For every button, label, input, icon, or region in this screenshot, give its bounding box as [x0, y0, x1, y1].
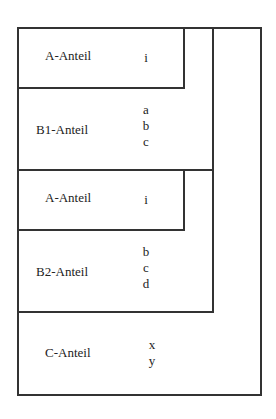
outer-bottom-line — [17, 394, 262, 396]
b1-letters: a b c — [140, 102, 152, 150]
outer-right-line — [260, 27, 262, 396]
a1-bottom-line — [17, 87, 185, 89]
letter: c — [140, 260, 152, 276]
a2-label: A-Anteil — [45, 190, 91, 206]
a2-right-line — [183, 169, 185, 231]
b2-letters: b c d — [140, 244, 152, 292]
letter: b — [140, 118, 152, 134]
letter: c — [140, 134, 152, 150]
c-label: C-Anteil — [45, 345, 91, 361]
b2-label: B2-Anteil — [36, 264, 88, 280]
a1-label: A-Anteil — [45, 48, 91, 64]
letter: d — [140, 276, 152, 292]
b2-bottom-line — [17, 311, 214, 313]
a1-right-line — [183, 27, 185, 89]
letter: y — [146, 353, 158, 369]
b1-label: B1-Anteil — [36, 122, 88, 138]
letter: x — [146, 337, 158, 353]
c-letters: x y — [146, 337, 158, 369]
letter: b — [140, 244, 152, 260]
letter: i — [140, 50, 152, 66]
letter: i — [140, 192, 152, 208]
a2-bottom-line — [17, 229, 185, 231]
letter: a — [140, 102, 152, 118]
a2-letters: i — [140, 192, 152, 208]
outer-left-line — [17, 27, 19, 396]
a1-letters: i — [140, 50, 152, 66]
outer-top-line — [17, 27, 262, 29]
